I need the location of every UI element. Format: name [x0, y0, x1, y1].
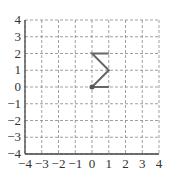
y-tick-label: 4 [15, 12, 22, 27]
x-tick-label: −3 [35, 156, 49, 171]
y-tick-label: −1 [7, 96, 21, 111]
x-tick-label: 1 [106, 156, 113, 171]
y-tick-label: 2 [15, 46, 22, 61]
x-tick-label: 0 [89, 156, 96, 171]
x-tick-label: −1 [68, 156, 82, 171]
y-tick-label: 3 [15, 29, 22, 44]
y-axis-tick-labels: −4−3−2−101234 [7, 12, 21, 161]
x-tick-label: 2 [122, 156, 129, 171]
y-tick-label: −4 [7, 146, 21, 161]
y-tick-label: −3 [7, 129, 21, 144]
y-tick-label: 0 [15, 79, 22, 94]
y-tick-label: −2 [7, 113, 21, 128]
x-axis-tick-labels: −4−3−2−101234 [18, 156, 163, 171]
x-tick-label: −2 [52, 156, 66, 171]
x-tick-label: 3 [139, 156, 146, 171]
x-tick-label: 4 [156, 156, 163, 171]
y-tick-label: 1 [15, 62, 22, 77]
coordinate-grid-chart: −4−3−2−101234 −4−3−2−101234 [0, 0, 174, 173]
origin-point-marker [90, 85, 95, 90]
